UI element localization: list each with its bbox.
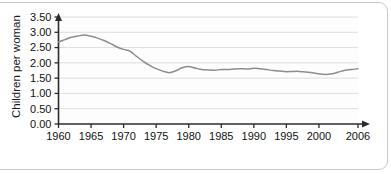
x-tick-label: 1990 — [242, 130, 266, 142]
y-axis-label: Children per woman — [10, 15, 22, 118]
x-tick-label: 1980 — [176, 130, 200, 142]
x-tick-group: 1960196519701975198019851990199520002006 — [46, 124, 370, 142]
x-tick-label: 1985 — [209, 130, 233, 142]
plot-area-wrapper: 0.000.501.001.502.002.503.003.50 1960196… — [0, 0, 391, 174]
x-axis-arrowhead — [362, 121, 370, 128]
y-tick-label: 3.00 — [30, 26, 51, 38]
x-tick-label: 2000 — [307, 130, 331, 142]
x-tick-label: 1975 — [144, 130, 168, 142]
y-tick-label: 0.50 — [30, 103, 51, 115]
y-tick-label: 1.00 — [30, 87, 51, 99]
y-tick-group: 0.000.501.001.502.002.503.003.50 — [30, 11, 58, 130]
y-tick-label: 2.00 — [30, 57, 51, 69]
chart-figure: 0.000.501.001.502.002.503.003.50 1960196… — [0, 0, 391, 174]
y-tick-label: 1.50 — [30, 72, 51, 84]
y-tick-label: 0.00 — [30, 118, 51, 130]
x-tick-label: 2006 — [346, 130, 370, 142]
x-tick-label: 1995 — [274, 130, 298, 142]
line-chart: 0.000.501.001.502.002.503.003.50 1960196… — [0, 0, 391, 174]
y-tick-label: 2.50 — [30, 41, 51, 53]
y-tick-label: 3.50 — [30, 11, 51, 23]
x-tick-label: 1970 — [111, 130, 135, 142]
x-tick-label: 1960 — [46, 130, 70, 142]
x-tick-label: 1965 — [79, 130, 103, 142]
